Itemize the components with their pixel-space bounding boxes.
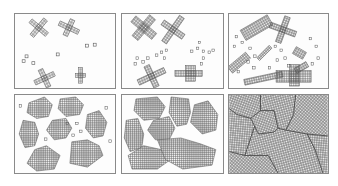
crystallites-panel-5 bbox=[122, 95, 223, 173]
panel-6-fully-crystallized bbox=[228, 94, 329, 174]
panel-2-growth bbox=[121, 13, 224, 89]
crystallites-panel-3 bbox=[229, 14, 328, 88]
panel-3-nucleation-growth bbox=[228, 13, 329, 89]
panel-5-near-impingement bbox=[121, 94, 224, 174]
crystallites-panel-4 bbox=[15, 95, 115, 173]
crystallites-panel-1 bbox=[15, 14, 115, 88]
crystallites-panel-2 bbox=[122, 14, 223, 88]
panel-1-early-nucleation bbox=[14, 13, 116, 89]
grain-structure-panel-6 bbox=[229, 95, 328, 173]
panel-4-large-crystallites bbox=[14, 94, 116, 174]
